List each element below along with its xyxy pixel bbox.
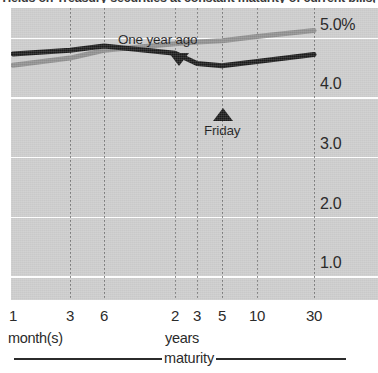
axis-rule-right — [216, 358, 346, 360]
arrow-down-icon — [169, 53, 189, 66]
x-axis-tick-label: 3 — [66, 307, 74, 324]
x-axis-group-months: month(s) — [8, 330, 63, 346]
axis-rule-left — [14, 358, 162, 360]
y-axis-tick-label: 1.0 — [320, 254, 341, 272]
y-axis-tick-label: 3.0 — [320, 135, 341, 153]
x-axis-tick-label: 1 — [9, 307, 17, 324]
yield-curve-chart: Yields on Treasury securities at constan… — [0, 0, 378, 373]
chart-title: Yields on Treasury securities at constan… — [0, 0, 378, 3]
x-axis-tick-label: 2 — [171, 307, 179, 324]
arrow-up-icon — [213, 108, 233, 121]
annotation-label-one-year-ago: One year ago — [118, 32, 197, 47]
x-axis-caption: maturity — [164, 350, 214, 366]
y-axis-tick-label: 5.0% — [320, 16, 355, 34]
y-axis-tick-label: 4.0 — [320, 75, 341, 93]
x-axis-tick-label: 5 — [218, 307, 226, 324]
annotation-label-friday: Friday — [204, 123, 240, 138]
x-axis-tick-label: 10 — [249, 307, 265, 324]
series-line-friday — [13, 46, 314, 66]
x-axis-tick-label: 3 — [193, 307, 201, 324]
x-axis-tick-label: 6 — [100, 307, 108, 324]
x-axis-group-years: years — [165, 330, 199, 346]
x-axis-tick-label: 30 — [306, 307, 322, 324]
y-axis-tick-label: 2.0 — [320, 195, 341, 213]
